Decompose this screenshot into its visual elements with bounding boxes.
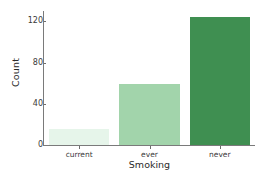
bar-ever bbox=[119, 84, 179, 145]
y-tick-label: 40 bbox=[23, 100, 43, 108]
x-tick-label: current bbox=[44, 150, 114, 159]
x-axis-title: Smoking bbox=[44, 159, 255, 170]
y-tick-label: 120 bbox=[23, 17, 43, 25]
x-tick-mark bbox=[79, 146, 80, 149]
bar-never bbox=[190, 17, 250, 145]
x-tick-label: never bbox=[185, 150, 255, 159]
y-axis-ticks: 04080120 bbox=[20, 0, 43, 176]
y-tick-label: 0 bbox=[23, 141, 43, 149]
y-tick-label: 80 bbox=[23, 59, 43, 67]
x-tick-label: ever bbox=[114, 150, 184, 159]
plot-area bbox=[44, 11, 255, 145]
x-tick-mark bbox=[220, 146, 221, 149]
x-axis-ticks: currentevernever bbox=[44, 146, 255, 160]
bar-current bbox=[49, 129, 109, 145]
bar-chart: Count 04080120 currentevernever Smoking bbox=[0, 0, 268, 176]
x-tick-mark bbox=[150, 146, 151, 149]
